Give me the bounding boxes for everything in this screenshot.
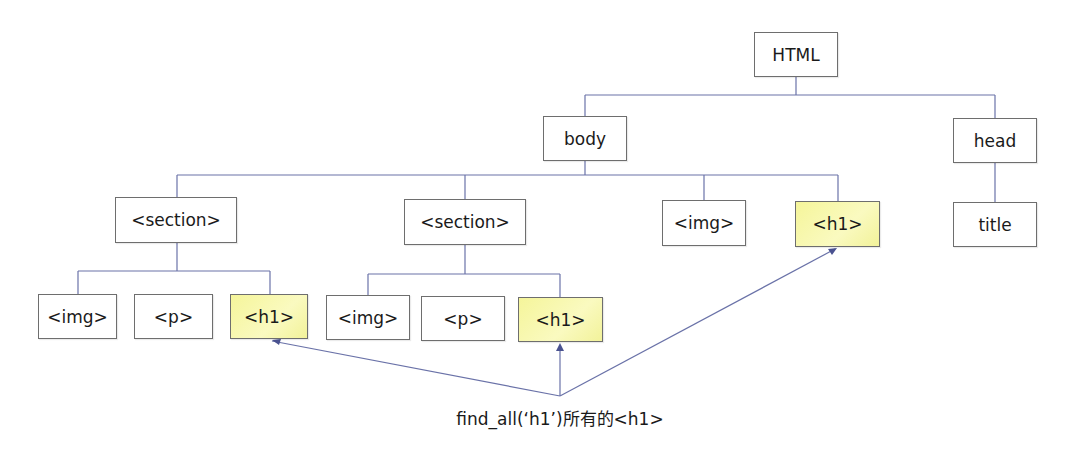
node-label: <img> bbox=[338, 308, 399, 328]
node-section-1: <section> bbox=[115, 197, 237, 243]
node-h1-body-highlighted: <h1> bbox=[795, 201, 880, 247]
node-label: <h1> bbox=[535, 310, 585, 330]
node-h1-section-1-highlighted: <h1> bbox=[230, 294, 308, 339]
node-label: body bbox=[564, 129, 606, 149]
node-img-section-1: <img> bbox=[38, 294, 117, 339]
node-title: title bbox=[953, 202, 1037, 247]
node-p-section-2: <p> bbox=[421, 296, 505, 341]
node-label: <section> bbox=[420, 212, 510, 232]
node-label: <img> bbox=[674, 213, 735, 233]
node-img-body: <img> bbox=[662, 200, 746, 246]
node-section-2: <section> bbox=[404, 199, 526, 245]
node-label: title bbox=[978, 215, 1011, 235]
node-label: <section> bbox=[131, 210, 221, 230]
node-img-section-2: <img> bbox=[326, 295, 410, 340]
node-html: HTML bbox=[754, 32, 838, 77]
node-p-section-1: <p> bbox=[134, 294, 213, 339]
node-label: <p> bbox=[443, 309, 482, 329]
node-label: head bbox=[974, 131, 1016, 151]
node-head: head bbox=[953, 118, 1037, 163]
node-label: <img> bbox=[47, 307, 108, 327]
node-label: HTML bbox=[772, 45, 819, 65]
node-label: <p> bbox=[154, 307, 193, 327]
node-label: <h1> bbox=[244, 307, 294, 327]
node-body: body bbox=[543, 116, 627, 161]
node-label: <h1> bbox=[812, 214, 862, 234]
node-h1-section-2-highlighted: <h1> bbox=[518, 297, 603, 342]
find-all-caption: find_all(‘h1’)所有的<h1> bbox=[420, 405, 700, 430]
dom-tree-diagram: HTML body head title <section> <section>… bbox=[0, 0, 1073, 456]
